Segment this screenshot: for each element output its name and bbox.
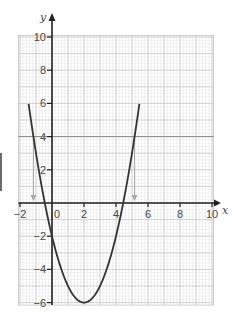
x-tick-label: −2 (14, 208, 27, 220)
y-tick-label: −6 (33, 297, 46, 309)
x-tick-label: 10 (206, 208, 218, 220)
x-tick-label: 6 (145, 208, 151, 220)
y-axis-label: y (39, 11, 47, 24)
x-tick-label: 8 (177, 208, 183, 220)
y-tick-label: 2 (40, 164, 46, 176)
arrow-down-icon (132, 195, 138, 201)
y-tick-label: 6 (40, 97, 46, 109)
y-tick-label: 8 (40, 64, 46, 76)
y-tick-label: 10 (34, 31, 46, 43)
x-axis-arrow-icon (214, 200, 221, 207)
arrow-down-icon (30, 195, 36, 201)
x-tick-label: 0 (54, 208, 60, 220)
x-tick-label: 2 (81, 208, 87, 220)
x-tick-label: 4 (113, 208, 119, 220)
y-tick-label: −2 (33, 230, 46, 242)
graph-plot: −20246810−6−4−2246810xy (0, 0, 234, 318)
y-axis-arrow-icon (49, 13, 56, 21)
y-tick-label: 4 (40, 131, 46, 143)
y-tick-label: −4 (33, 263, 46, 275)
x-axis-label: x (222, 204, 229, 217)
